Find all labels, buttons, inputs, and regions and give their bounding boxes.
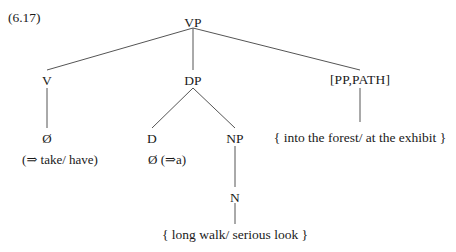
terminal-np-content: { long walk/ serious look } [162,228,308,242]
node-np: NP [226,132,244,146]
terminal-pp-content: { into the forest/ at the exhibit } [274,131,446,145]
node-n: N [230,191,240,205]
gloss-v-head: (⇒ take/ have) [22,153,98,166]
node-v: V [42,74,52,88]
branch-dp-to-d [152,88,193,128]
tree-branch-lines [0,0,456,252]
syntax-tree-figure: (6.17) VP V DP [PP,PATH] Ø D [0,0,456,252]
node-d: D [147,132,157,146]
node-dp: DP [184,74,202,88]
node-pp-path: [PP,PATH] [330,73,390,87]
node-vp: VP [184,16,202,30]
branch-vp-to-pp [193,28,360,70]
branch-dp-to-np [193,88,235,128]
terminal-v-head: Ø [42,132,51,145]
terminal-d-head: Ø (⇒a) [148,153,186,166]
branch-vp-to-v [47,28,193,70]
